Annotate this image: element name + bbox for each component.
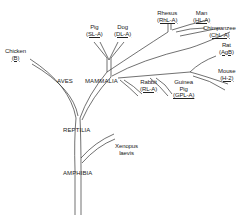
species-rabbit: Rabbit (RL-A) — [140, 79, 157, 92]
species-name: Guinea — [173, 79, 194, 86]
species-code: (ChL-A) — [203, 32, 236, 39]
species-rhesus: Rhesus (RhL-A) — [157, 10, 177, 23]
species-code: (SL-A) — [86, 31, 103, 38]
species-rat: Rat (AgB) — [219, 42, 234, 55]
species-xenopus: Xenopus laevis — [115, 143, 138, 156]
species-chimpanzee: Chimpanzee (ChL-A) — [203, 25, 236, 38]
species-dog: Dog (DL-A) — [114, 24, 131, 37]
species-name: Chicken — [5, 48, 26, 55]
species-code: (B) — [5, 55, 26, 62]
species-man: Man (HL-A) — [193, 10, 210, 23]
species-code: (GPL-A) — [173, 92, 194, 99]
species-guinea-pig: Guinea Pig (GPL-A) — [173, 79, 194, 99]
species-name: Rabbit — [140, 79, 157, 86]
species-code: (AgB) — [219, 49, 234, 56]
species-code: (HL-A) — [193, 17, 210, 24]
species-code: (RL-A) — [140, 86, 157, 93]
class-label-aves: AVES — [57, 78, 73, 84]
species-name: Xenopus — [115, 143, 138, 150]
class-label-reptilia: REPTILIA — [63, 127, 90, 133]
class-label-mammalia: MAMMALIA — [85, 78, 118, 84]
species-name: Mouse — [218, 68, 236, 75]
species-name: Rhesus — [157, 10, 177, 17]
species-code: (RhL-A) — [157, 17, 177, 24]
species-name: Chimpanzee — [203, 25, 236, 32]
class-label-amphibia: AMPHIBIA — [63, 170, 92, 176]
species-name: laevis — [115, 150, 138, 157]
species-code: (H-2) — [218, 75, 236, 82]
species-mouse: Mouse (H-2) — [218, 68, 236, 81]
species-code: (DL-A) — [114, 31, 131, 38]
species-chicken: Chicken (B) — [5, 48, 26, 61]
species-pig: Pig (SL-A) — [86, 24, 103, 37]
